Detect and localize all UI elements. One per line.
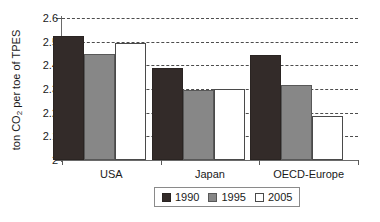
bar-oecd-europe-2005 [312, 116, 343, 160]
bar-usa-1990 [53, 36, 84, 160]
chart-legend: 199019952005 [154, 187, 300, 207]
bar-chart: ton CO2 per toe of TPES 22.12.22.32.42.5… [0, 0, 380, 222]
bar-oecd-europe-1995 [281, 85, 312, 160]
legend-item-2005: 2005 [255, 192, 292, 203]
x-axis-category-label: Japan [161, 168, 260, 181]
x-axis-category-label: OECD-Europe [259, 168, 358, 181]
x-axis-tick-mark [358, 160, 359, 165]
legend-swatch-icon [208, 193, 217, 202]
bar-japan-2005 [214, 89, 245, 160]
bar-oecd-europe-1990 [250, 55, 281, 160]
x-axis-tick-mark [62, 160, 63, 165]
legend-label: 2005 [268, 192, 292, 203]
x-axis-tick-mark [259, 160, 260, 165]
legend-swatch-icon [255, 193, 264, 202]
bar-usa-2005 [115, 43, 146, 160]
bar-japan-1995 [183, 90, 214, 160]
legend-label: 1995 [221, 192, 245, 203]
legend-item-1990: 1990 [162, 192, 199, 203]
x-axis-line [61, 160, 359, 161]
bar-usa-1995 [84, 54, 115, 161]
legend-swatch-icon [162, 193, 171, 202]
x-axis-tick-mark [161, 160, 162, 165]
plot-area [62, 18, 358, 160]
gridline [62, 42, 358, 43]
legend-label: 1990 [175, 192, 199, 203]
x-axis-category-label: USA [62, 168, 161, 181]
legend-item-1995: 1995 [208, 192, 245, 203]
y-axis-tick-label: 2.6 [18, 13, 58, 24]
bar-japan-1990 [152, 68, 183, 160]
gridline [62, 18, 358, 19]
